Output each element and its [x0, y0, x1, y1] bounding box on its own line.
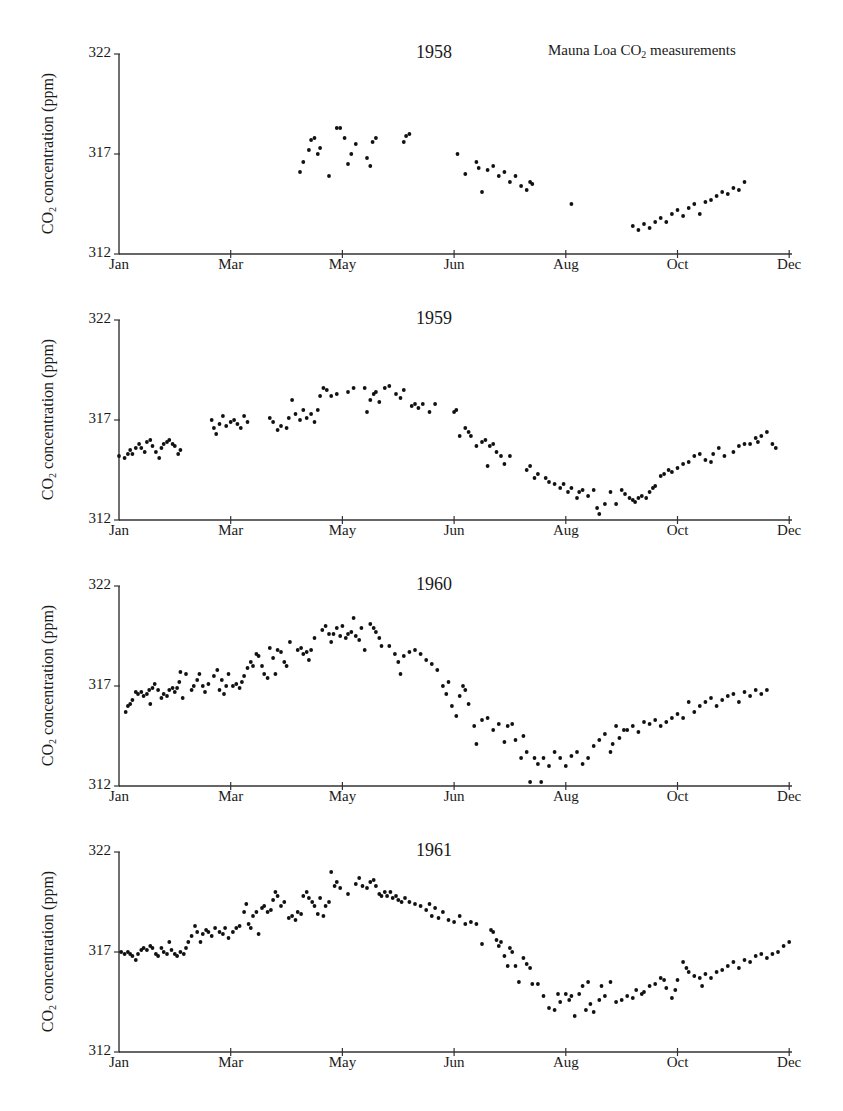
data-point [408, 650, 412, 654]
data-point [556, 992, 560, 996]
data-point [681, 960, 685, 964]
data-point [704, 700, 708, 704]
data-point [301, 408, 305, 412]
data-point [480, 718, 484, 722]
data-point [592, 744, 596, 748]
data-point [320, 628, 324, 632]
data-point [182, 952, 186, 956]
figure-title: Mauna Loa CO2 measurements [548, 42, 736, 60]
data-point [525, 468, 529, 472]
data-point [210, 934, 214, 938]
data-point [327, 632, 331, 636]
data-point [391, 896, 395, 900]
data-point [396, 660, 400, 664]
data-point [467, 702, 471, 706]
data-point [307, 658, 311, 662]
data-point [609, 980, 613, 984]
data-point [737, 966, 741, 970]
data-point [625, 728, 629, 732]
data-point [231, 930, 235, 934]
data-point [659, 216, 663, 220]
data-point [341, 624, 345, 628]
data-point [238, 686, 242, 690]
data-point [536, 762, 540, 766]
data-point [717, 446, 721, 450]
data-point [642, 720, 646, 724]
data-point [480, 440, 484, 444]
data-point [486, 168, 490, 172]
data-point [441, 910, 445, 914]
data-point [322, 914, 326, 918]
data-point [499, 454, 503, 458]
data-point [404, 134, 408, 138]
data-point [581, 762, 585, 766]
data-point [162, 692, 166, 696]
data-point [408, 132, 412, 136]
data-point [566, 490, 570, 494]
data-point [227, 936, 231, 940]
data-point [782, 944, 786, 948]
data-point [167, 688, 171, 692]
x-tick-label-may: May [312, 522, 372, 539]
data-point [393, 652, 397, 656]
data-point [570, 754, 574, 758]
data-point [383, 890, 387, 894]
data-point [309, 412, 313, 416]
data-point [676, 208, 680, 212]
data-point [732, 186, 736, 190]
data-point [424, 658, 428, 662]
data-point [662, 472, 666, 476]
data-point [136, 952, 140, 956]
data-point [399, 396, 403, 400]
data-point [637, 730, 641, 734]
data-point [332, 632, 336, 636]
data-point [475, 742, 479, 746]
data-point [653, 982, 657, 986]
data-point [324, 624, 328, 628]
x-tick-label-dec: Dec [759, 256, 819, 273]
data-point [567, 998, 571, 1002]
data-point [503, 462, 507, 466]
data-point [145, 692, 149, 696]
data-point [458, 914, 462, 918]
data-point [385, 894, 389, 898]
data-point [276, 648, 280, 652]
data-point [287, 416, 291, 420]
data-point [508, 946, 512, 950]
data-point [486, 716, 490, 720]
data-point [754, 688, 758, 692]
data-point [173, 690, 177, 694]
data-point [597, 998, 601, 1002]
data-point [754, 954, 758, 958]
data-point [198, 672, 202, 676]
x-tick-label-aug: Aug [536, 522, 596, 539]
data-point [274, 672, 278, 676]
data-point [748, 960, 752, 964]
data-point [255, 910, 259, 914]
x-tick-label-jun: Jun [424, 1054, 484, 1071]
data-point [232, 418, 236, 422]
data-point [709, 976, 713, 980]
data-point [771, 952, 775, 956]
data-point [522, 734, 526, 738]
data-point [631, 996, 635, 1000]
data-point [463, 688, 467, 692]
data-point [268, 416, 272, 420]
data-point [313, 420, 317, 424]
data-point [285, 664, 289, 668]
data-point [177, 680, 181, 684]
data-point [374, 390, 378, 394]
data-point [365, 156, 369, 160]
data-point [558, 756, 562, 760]
chart-panel-1961: CO2 concentration (ppm) 322 317 312 1961… [0, 832, 843, 1102]
data-point [774, 446, 778, 450]
data-point [597, 512, 601, 516]
data-point [184, 672, 188, 676]
data-point [536, 982, 540, 986]
data-point [151, 444, 155, 448]
data-point [402, 654, 406, 658]
data-point [595, 506, 599, 510]
data-point [268, 646, 272, 650]
data-point [234, 926, 238, 930]
x-tick-label-may: May [312, 256, 372, 273]
